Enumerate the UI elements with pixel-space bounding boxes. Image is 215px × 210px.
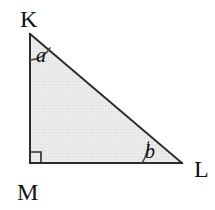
vertex-label-M: M <box>17 179 38 205</box>
angle-label-a: a <box>36 44 46 66</box>
triangle-diagram-svg: K M L a b <box>0 0 215 210</box>
vertex-label-L: L <box>194 156 209 182</box>
geometry-figure: K M L a b <box>0 0 215 210</box>
vertex-label-K: K <box>20 6 38 32</box>
angle-label-b: b <box>145 140 155 162</box>
